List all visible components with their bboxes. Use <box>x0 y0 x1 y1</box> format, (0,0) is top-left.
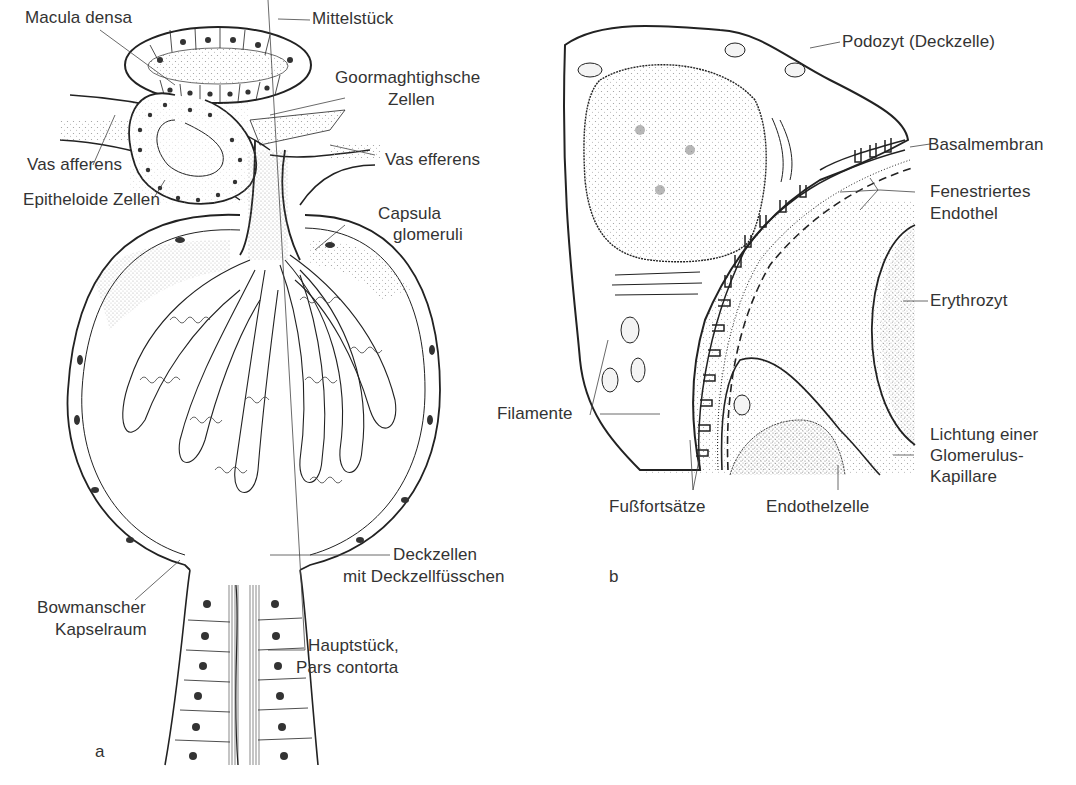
label-podozyt: Podozyt (Deckzelle) <box>842 32 995 52</box>
label-vas-efferens: Vas efferens <box>385 150 480 170</box>
label-vas-afferens: Vas afferens <box>27 155 122 175</box>
label-hauptstueck-line1: Hauptstück, <box>308 636 399 656</box>
figure-artwork <box>0 0 1076 785</box>
label-erythrozyt: Erythrozyt <box>930 291 1008 311</box>
label-mittelstueck: Mittelstück <box>312 9 393 29</box>
label-bowman-line1: Bowmanscher <box>37 598 146 618</box>
label-goormaghtigh-line1: Goormaghtighsche <box>335 68 480 88</box>
label-goormaghtigh-line2: Zellen <box>388 90 435 110</box>
panel-letter-b: b <box>609 567 618 587</box>
label-capsula-line1: Capsula <box>378 204 441 224</box>
label-lichtung-line2: Glomerulus- <box>930 446 1024 466</box>
label-fenestriert-line1: Fenestriertes <box>930 182 1031 202</box>
label-hauptstueck-line2: Pars contorta <box>296 658 398 678</box>
label-endothelzelle: Endothelzelle <box>766 497 869 517</box>
panel-b-drawing <box>564 26 930 490</box>
label-deckzellen-line1: Deckzellen <box>393 545 477 565</box>
label-basalmembran: Basalmembran <box>928 135 1044 155</box>
label-fenestriert-line2: Endothel <box>930 204 998 224</box>
label-lichtung-line1: Lichtung einer <box>930 425 1038 445</box>
label-fussfortsaetze: Fußfortsätze <box>609 497 706 517</box>
label-lichtung-line3: Kapillare <box>930 467 997 487</box>
label-deckzellen-line2: mit Deckzellfüsschen <box>343 567 505 587</box>
label-epitheloide-zellen: Epitheloide Zellen <box>23 190 160 210</box>
label-macula-densa: Macula densa <box>25 8 132 28</box>
label-filamente: Filamente <box>497 404 573 424</box>
panel-letter-a: a <box>95 742 104 762</box>
label-capsula-line2: glomeruli <box>393 225 463 245</box>
label-bowman-line2: Kapselraum <box>55 620 147 640</box>
